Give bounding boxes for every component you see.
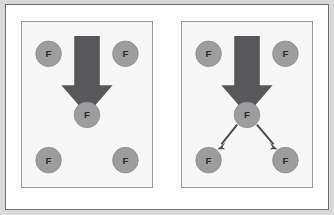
edge-line [221,125,237,145]
node-bottom-left: F [36,147,62,173]
node-label: F [122,155,128,166]
node-top-right: F [113,41,139,67]
node-top-right: F [273,41,299,67]
panel-right-graphic: F F F F F [182,22,312,187]
node-top-left: F [36,41,62,67]
node-bottom-right: F [273,147,299,173]
node-bottom-left: F [196,147,222,173]
node-label: F [244,109,250,120]
node-label: F [84,109,90,120]
node-label: F [282,155,288,166]
node-center: F [74,102,100,128]
panel-right: F F F F F [181,21,313,188]
node-label: F [282,48,288,59]
node-label: F [206,155,212,166]
node-label: F [46,155,52,166]
diagram-figure: F F F F F [0,0,334,215]
node-top-left: F [196,41,222,67]
edge-center-to-bottom-right [257,125,278,150]
node-center: F [234,102,260,128]
panel-left: F F F F F [21,21,153,188]
node-label: F [122,48,128,59]
node-label: F [46,48,52,59]
panel-left-graphic: F F F F F [22,22,152,187]
figure-frame: F F F F F [5,4,329,210]
edge-center-to-bottom-left [217,125,237,150]
node-bottom-right: F [113,147,139,173]
edge-line [257,125,274,145]
panel-container: F F F F F [6,5,330,211]
node-label: F [206,48,212,59]
